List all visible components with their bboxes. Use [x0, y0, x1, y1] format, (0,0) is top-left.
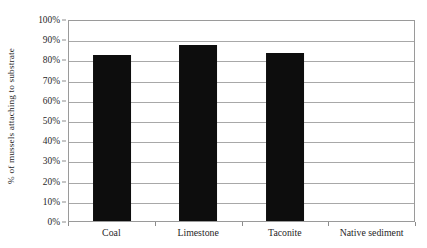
y-axis-tick-mark: [62, 222, 66, 223]
x-axis-tick-mark: [415, 222, 416, 226]
y-axis-tick-label: 40%: [43, 136, 60, 146]
y-axis-tick-label: 0%: [48, 217, 61, 227]
y-axis-title: % of mussels attaching to substrate: [6, 48, 16, 184]
bar: [266, 53, 304, 221]
bars-group: [69, 21, 414, 221]
x-axis-category-label: Native sediment: [328, 227, 415, 238]
y-axis-tick-label: 20%: [43, 177, 60, 187]
x-axis-tick-mark: [155, 222, 156, 226]
y-axis-tick-mark: [62, 20, 66, 21]
y-axis-tick-label: 80%: [43, 55, 60, 65]
y-axis-tick-label: 50%: [43, 116, 60, 126]
y-axis-tick-mark: [62, 161, 66, 162]
bar-band: [69, 21, 155, 221]
y-axis-tick-mark: [62, 100, 66, 101]
y-axis-tick-mark: [62, 201, 66, 202]
y-axis-tick-label: 30%: [43, 156, 60, 166]
x-axis-tick-mark: [328, 222, 329, 226]
y-axis-tick-mark: [62, 141, 66, 142]
x-axis-category-label: Taconite: [242, 227, 329, 238]
x-axis-tick-mark: [242, 222, 243, 226]
y-axis-tick-label: 100%: [38, 15, 60, 25]
y-axis-tick-mark: [62, 80, 66, 81]
bar-chart-figure: % of mussels attaching to substrate 0%10…: [0, 0, 427, 248]
x-axis-category-label: Coal: [68, 227, 155, 238]
y-axis-tick-label: 60%: [43, 96, 60, 106]
y-axis-tick-label: 90%: [43, 35, 60, 45]
plot-area: [68, 20, 415, 222]
bar: [93, 55, 131, 221]
x-axis: CoalLimestoneTaconiteNative sediment: [68, 222, 415, 248]
y-axis-tick-labels: 0%10%20%30%40%50%60%70%80%90%100%: [20, 20, 66, 222]
y-axis-tick-mark: [62, 60, 66, 61]
y-axis-title-container: % of mussels attaching to substrate: [0, 0, 22, 232]
x-axis-category-labels: CoalLimestoneTaconiteNative sediment: [68, 227, 415, 238]
x-axis-tick-mark: [68, 222, 69, 226]
bar-band: [242, 21, 328, 221]
y-axis-tick-label: 70%: [43, 76, 60, 86]
bar-band: [155, 21, 241, 221]
y-axis-tick-mark: [62, 181, 66, 182]
y-axis-tick-mark: [62, 40, 66, 41]
bar: [179, 45, 217, 221]
y-axis-tick-mark: [62, 121, 66, 122]
x-axis-category-label: Limestone: [155, 227, 242, 238]
y-axis-tick-label: 10%: [43, 197, 60, 207]
bar-band: [328, 21, 414, 221]
